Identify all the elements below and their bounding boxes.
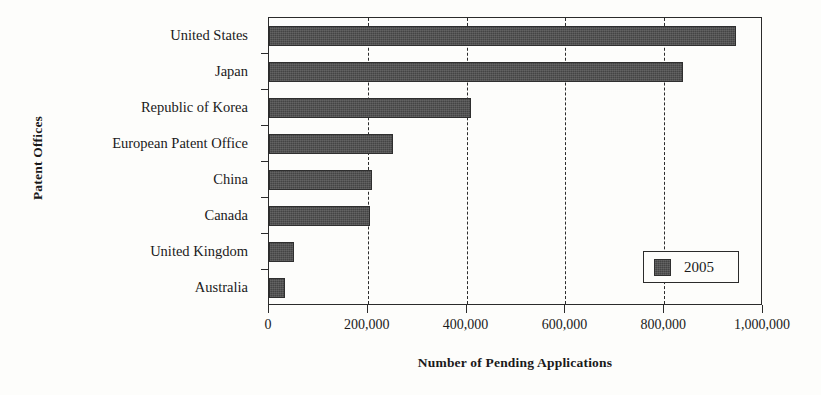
bar <box>269 242 294 262</box>
x-axis-tick <box>762 305 763 313</box>
legend-label-2005: 2005 <box>684 260 714 275</box>
y-axis-tick-label: United Kingdom <box>33 244 248 259</box>
y-axis-tick-label: United States <box>33 28 248 43</box>
y-axis-tick-label: Canada <box>33 208 248 223</box>
x-axis-tick <box>268 305 269 313</box>
y-axis-tick <box>261 53 269 54</box>
y-axis-tick-label: Republic of Korea <box>33 100 248 115</box>
bar <box>269 206 370 226</box>
bar <box>269 170 372 190</box>
gridline <box>368 18 369 304</box>
y-axis-tick-label: European Patent Office <box>33 136 248 151</box>
bar <box>269 62 683 82</box>
chart-legend: 2005 <box>643 251 739 283</box>
plot-area: 2005 <box>268 17 762 305</box>
x-axis-tick <box>367 305 368 313</box>
y-axis-tick-label: Japan <box>33 64 248 79</box>
y-axis-category-labels: United StatesJapanRepublic of KoreaEurop… <box>40 17 258 305</box>
x-axis-tick-label: 800,000 <box>640 318 686 332</box>
y-axis-tick <box>261 89 269 90</box>
x-axis-tick <box>564 305 565 313</box>
y-axis-tick <box>261 197 269 198</box>
y-axis-tick <box>261 233 269 234</box>
y-axis-tick-label: Australia <box>33 280 248 295</box>
x-axis-tick-label: 0 <box>265 318 272 332</box>
bar <box>269 26 736 46</box>
x-axis-tick-label: 400,000 <box>443 318 489 332</box>
bar <box>269 278 285 298</box>
x-axis-tick <box>466 305 467 313</box>
bar <box>269 98 471 118</box>
gridline <box>565 18 566 304</box>
legend-swatch-2005 <box>654 259 671 276</box>
y-axis-tick <box>261 269 269 270</box>
bar-chart-figure: Patent Offices United StatesJapanRepubli… <box>0 0 821 395</box>
x-axis-title: Number of Pending Applications <box>268 355 762 371</box>
y-axis-tick <box>261 125 269 126</box>
bar <box>269 134 393 154</box>
x-axis-tick-label: 1,000,000 <box>734 318 790 332</box>
x-axis-tick-label: 600,000 <box>542 318 588 332</box>
x-axis-tick <box>663 305 664 313</box>
y-axis-tick <box>261 161 269 162</box>
y-axis-tick-label: China <box>33 172 248 187</box>
x-axis-tick-label: 200,000 <box>344 318 390 332</box>
gridline <box>467 18 468 304</box>
